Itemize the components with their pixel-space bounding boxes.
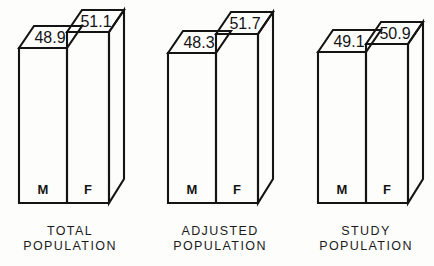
- bar-sex-label-m: M: [38, 182, 49, 197]
- bar-figure: 48.9 51.1 48.3 51.7 49.1 50.9 M F M F M …: [0, 0, 434, 266]
- group-caption-line2: POPULATION: [0, 239, 140, 254]
- bar-f-front-face: [67, 32, 109, 203]
- bar-f-side-face: [109, 10, 124, 203]
- bar-value-label: 49.1: [333, 33, 364, 50]
- group-caption-line2: POPULATION: [150, 239, 290, 254]
- bar-f-side-face: [258, 12, 273, 203]
- group-caption-line2: POPULATION: [296, 239, 434, 254]
- bar-sex-label-f: F: [383, 182, 391, 197]
- bar-m-front-face: [168, 53, 216, 203]
- group-caption-total-population: TOTAL POPULATION: [0, 224, 140, 254]
- bar-f-front-face: [366, 44, 408, 203]
- bar-value-label: 51.7: [229, 15, 260, 32]
- bar-value-label: 48.3: [183, 34, 214, 51]
- bar-m-front-face: [318, 52, 366, 203]
- bar-f-front-face: [216, 34, 258, 203]
- group-caption-study-population: STUDY POPULATION: [296, 224, 434, 254]
- bar-f-side-face: [408, 22, 423, 203]
- group-caption-line1: STUDY: [296, 224, 434, 239]
- group-caption-line1: ADJUSTED: [150, 224, 290, 239]
- bar-value-label: 48.9: [34, 29, 65, 46]
- bar-sex-label-m: M: [187, 182, 198, 197]
- group-caption-adjusted-population: ADJUSTED POPULATION: [150, 224, 290, 254]
- group-caption-line1: TOTAL: [0, 224, 140, 239]
- bar-value-label: 51.1: [80, 13, 111, 30]
- bar-m-front-face: [19, 48, 67, 203]
- bar-value-label: 50.9: [379, 25, 410, 42]
- bar-sex-label-f: F: [84, 182, 92, 197]
- bar-sex-label-f: F: [233, 182, 241, 197]
- bar-sex-label-m: M: [337, 182, 348, 197]
